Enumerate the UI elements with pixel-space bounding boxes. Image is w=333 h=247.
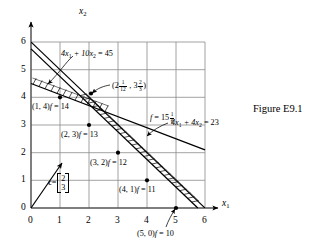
point-label-2-3: (2, 3)f = 13 [61,131,98,139]
y-axis-label: x2 [79,7,87,18]
data-point-1-4 [58,95,62,99]
x-tick-5: 5 [173,216,178,226]
point-2-3-value: = 13 [81,130,98,139]
leader-vertex [92,85,110,93]
x-axis-label: x1 [222,199,230,210]
vertex-fraction-2: 23 [138,80,143,92]
x-tick-3: 3 [115,216,120,226]
point-1-4-value: = 14 [52,102,69,111]
constraint-1-tail: = 45 [96,49,113,58]
vertex-fraction-1: 112 [119,80,126,92]
vertex-mid: , 3 [127,81,137,90]
point-label-1-4: (1, 4)f = 14 [32,103,69,111]
bracket-left [57,173,61,193]
optimum-equals: = 15 [152,113,169,122]
vertex-frac2-numerator: 2 [138,80,143,86]
point-3-2-coords: (3, 2) [90,158,108,167]
constraint-2-mid: + 4x [182,118,199,127]
y-tick-2: 2 [21,148,26,158]
x-tick-4: 4 [144,216,149,226]
point-3-2-value: = 12 [110,158,127,167]
point-1-4-coords: (1, 4) [32,102,50,111]
y-tick-5: 5 [21,65,26,75]
data-point-5-0 [174,206,178,210]
constraint-2-lead: 4x [171,118,179,127]
data-point-4-1 [145,178,149,182]
point-label-4-1: (4, 1)f = 11 [119,186,156,194]
c-vector-label: c = 23 [48,173,69,193]
data-point-3-2 [116,151,120,155]
point-label-3-2: (3, 2)f = 12 [90,159,127,167]
vertex-frac2-denominator: 3 [138,86,143,93]
x-tick-1: 1 [57,216,62,226]
constraint-2-tail: = 23 [202,118,219,127]
point-4-1-value: = 11 [139,185,156,194]
data-point-vertex [89,91,93,95]
point-4-1-coords: (4, 1) [119,185,137,194]
vertex-coordinate-label: (2112 , 323) [112,80,146,92]
y-tick-1: 1 [21,175,26,185]
constraint-1-lead: 4x [61,49,69,58]
vertex-prefix: (2 [112,81,119,90]
point-2-3-coords: (2, 3) [61,130,79,139]
x-axis-subscript: 1 [226,202,229,209]
figure-caption: Figure E9.1 [253,104,303,115]
y-tick-4: 4 [21,92,26,102]
point-5-0-coords: (5, 0) [137,229,155,238]
figure-container: x2 x1 6 5 4 3 2 1 0 0 1 2 3 4 5 6 4x1 + … [0,0,333,247]
x-tick-6: 6 [202,216,207,226]
vertex-frac1-denominator: 12 [119,86,126,93]
point-label-5-0: (5, 0)f = 10 [137,230,174,238]
vertex-suffix: ) [143,81,146,90]
bracket-right [65,173,69,193]
x-tick-0: 0 [28,216,33,226]
y-axis-subscript: 2 [83,10,86,17]
constraint-1-label: 4x1 + 10x2 = 45 [61,50,113,59]
data-point-2-3 [87,123,91,127]
constraint-2-label: 4x1 + 4x2 = 23 [171,119,219,128]
point-5-0-value: = 10 [157,229,174,238]
c-vector-equals: = [52,179,57,187]
c-vector-matrix: 23 [57,173,69,193]
constraint-1-mid: + 10x [72,49,93,58]
x-tick-2: 2 [86,216,91,226]
y-tick-6: 6 [21,37,26,47]
y-tick-0: 0 [21,203,26,213]
y-tick-3: 3 [21,120,26,130]
